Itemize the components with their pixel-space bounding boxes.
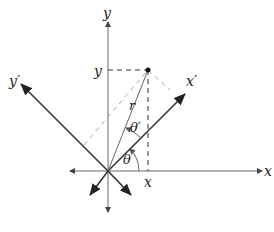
point-p (146, 68, 151, 73)
radius-label: r (129, 98, 136, 113)
diagram-canvas: y x y′ x′ y x r θ θ′ (0, 0, 274, 232)
x-prime-projection-dashed (148, 70, 170, 90)
theta-prime-label: θ′ (130, 120, 141, 135)
x-prime-label: x′ (186, 73, 198, 89)
y-coordinate-label: y (93, 63, 103, 79)
x-coordinate-label: x (144, 174, 152, 190)
theta-arc (130, 149, 139, 171)
y-prime-axis (21, 84, 108, 195)
rotated-axes-diagram: y x y′ x′ y x r θ θ′ (0, 0, 274, 232)
y-prime-label: y′ (8, 73, 21, 89)
y-axis-label: y (102, 5, 112, 21)
theta-label: θ (123, 152, 131, 167)
x-axis-label: x (264, 163, 272, 179)
